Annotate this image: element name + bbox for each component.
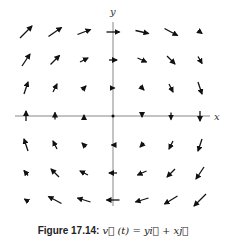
arrow-icon xyxy=(198,57,202,64)
arrow-icon xyxy=(24,139,28,151)
arrow-icon xyxy=(138,171,147,175)
arrow-icon xyxy=(25,199,28,201)
vector-field-plot: x y xyxy=(0,0,226,220)
arrow-icon xyxy=(53,141,57,149)
arrow-icon xyxy=(140,143,144,147)
arrow-icon xyxy=(24,171,28,176)
arrow-icon xyxy=(51,56,60,65)
arrow-icon xyxy=(169,84,173,92)
arrow-icon xyxy=(49,197,62,204)
arrow-icon xyxy=(82,86,86,90)
arrow-icon xyxy=(24,82,28,94)
arrow-icon xyxy=(136,31,149,34)
arrow-icon xyxy=(138,58,147,62)
arrow-icon xyxy=(20,26,32,38)
arrow-icon xyxy=(22,54,30,66)
arrow-icon xyxy=(80,171,88,175)
arrow-icon xyxy=(136,198,149,202)
arrow-icon xyxy=(49,28,62,37)
arrow-icon xyxy=(169,141,173,149)
arrow-icon xyxy=(198,139,202,151)
arrow-icon xyxy=(198,82,202,94)
arrow-icon xyxy=(78,30,91,35)
y-axis-label: y xyxy=(109,6,116,17)
arrow-icon xyxy=(167,56,175,64)
arrow-icon xyxy=(78,198,91,202)
arrow-icon xyxy=(80,58,88,62)
x-axis-label: x xyxy=(214,111,220,122)
arrow-icon xyxy=(53,84,57,92)
arrow-icon xyxy=(82,143,86,147)
arrow-icon xyxy=(196,167,204,179)
arrow-icon xyxy=(140,86,144,90)
caption-equation: v⃗ (t) = yi⃗ + xj⃗ xyxy=(103,225,189,236)
caption-label: Figure 17.14: xyxy=(38,225,100,236)
arrow-icon xyxy=(194,194,206,206)
arrow-icon xyxy=(198,31,202,34)
arrow-icon xyxy=(165,29,178,36)
zero-vector-dot xyxy=(112,115,115,118)
figure-caption: Figure 17.14: v⃗ (t) = yi⃗ + xj⃗ xyxy=(0,225,226,236)
arrow-icon xyxy=(165,196,178,204)
arrow-icon xyxy=(167,169,175,177)
arrow-icon xyxy=(51,169,59,177)
